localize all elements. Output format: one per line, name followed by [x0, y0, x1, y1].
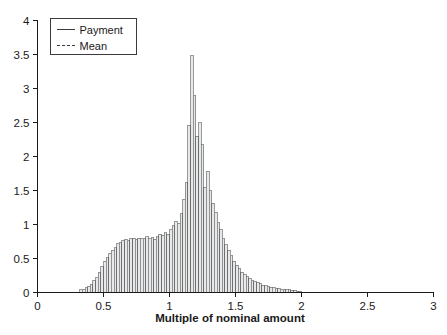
histogram-bar [204, 187, 207, 292]
y-tick-label: 3.5 [14, 49, 30, 61]
y-tick-label: 1.5 [14, 185, 30, 197]
histogram-bar [183, 199, 186, 292]
histogram-bar [238, 269, 241, 293]
histogram-bars [80, 56, 302, 293]
histogram-bar [90, 284, 93, 292]
histogram-bar [228, 250, 231, 292]
histogram-bar [159, 234, 162, 292]
histogram-bar [254, 282, 257, 293]
histogram-bar [85, 288, 88, 293]
y-tick-label: 2.5 [14, 117, 30, 129]
histogram-bar [133, 238, 136, 292]
histogram-bar [175, 221, 178, 292]
histogram-bar [233, 261, 236, 292]
histogram-bar [193, 95, 196, 292]
histogram-bar [125, 239, 128, 292]
histogram-bar [164, 233, 167, 293]
histogram-bar [106, 257, 109, 292]
histogram-bar [98, 272, 101, 292]
histogram-bar [111, 250, 114, 292]
histogram-bar [96, 278, 99, 293]
histogram-bar [104, 261, 107, 292]
legend-label-mean: Mean [80, 40, 108, 52]
histogram-bar [109, 253, 112, 292]
histogram-bar [88, 286, 91, 292]
x-tick-label: 1.5 [228, 300, 244, 312]
histogram-bar [140, 239, 143, 293]
x-tick-label: 2.5 [360, 300, 376, 312]
histogram-bar [82, 289, 85, 292]
histogram-bar [196, 136, 199, 292]
histogram-bar [146, 237, 149, 293]
x-tick-label: 0 [34, 300, 40, 312]
histogram-bar [278, 288, 281, 292]
histogram-bar [180, 214, 183, 293]
x-tick-label: 3 [430, 300, 436, 312]
histogram-bar [148, 239, 151, 293]
histogram-bar [214, 212, 217, 292]
histogram-bar [270, 287, 273, 292]
x-axis-title: Multiple of nominal amount [155, 312, 305, 324]
histogram-bar [212, 203, 215, 292]
histogram-bar [230, 255, 233, 292]
histogram-bar [122, 241, 125, 293]
histogram-bar [243, 275, 246, 293]
histogram-bar [241, 272, 244, 292]
histogram-bar [101, 267, 104, 293]
histogram-bar [272, 288, 275, 293]
chart-figure: 00.511.522.53 00.511.522.533.54 Multiple… [0, 0, 447, 335]
y-tick-label: 4 [23, 15, 30, 27]
histogram-bar [259, 284, 262, 293]
histogram-bar [262, 285, 265, 292]
histogram-bar [236, 265, 239, 292]
histogram-bar [172, 226, 175, 293]
y-tick-label: 1 [23, 219, 29, 231]
histogram-bar [249, 279, 252, 293]
histogram-bar [117, 244, 120, 293]
chart-legend: PaymentMean [51, 19, 137, 55]
histogram-bar [188, 125, 191, 292]
histogram-chart: 00.511.522.53 00.511.522.533.54 Multiple… [0, 0, 447, 335]
histogram-bar [222, 238, 225, 292]
histogram-bar [185, 182, 188, 292]
histogram-bar [220, 230, 223, 293]
histogram-bar [225, 245, 228, 293]
y-axis-ticks: 00.511.522.533.54 [14, 15, 38, 299]
histogram-bar [265, 286, 268, 293]
histogram-bar [209, 191, 212, 293]
histogram-bar [170, 230, 173, 293]
histogram-bar [251, 280, 254, 292]
histogram-bar [156, 237, 159, 293]
histogram-bar [154, 239, 157, 292]
x-tick-label: 2 [298, 300, 304, 312]
histogram-bar [93, 281, 96, 293]
histogram-bar [167, 234, 170, 292]
histogram-bar [199, 123, 202, 293]
histogram-bar [138, 238, 141, 292]
y-tick-label: 3 [23, 83, 29, 95]
legend-label-payment: Payment [80, 24, 123, 36]
histogram-bar [246, 277, 249, 293]
x-tick-label: 1 [166, 300, 172, 312]
histogram-bar [267, 286, 270, 292]
histogram-bar [114, 248, 117, 293]
histogram-bar [280, 289, 283, 292]
x-axis-ticks: 00.511.522.53 [34, 293, 436, 312]
histogram-bar [283, 289, 286, 292]
y-tick-label: 0 [23, 287, 29, 299]
histogram-bar [217, 222, 220, 292]
histogram-bar [135, 239, 138, 292]
histogram-bar [130, 239, 133, 293]
histogram-bar [127, 240, 130, 292]
histogram-bar [162, 235, 165, 292]
histogram-bar [151, 237, 154, 292]
y-tick-label: 0.5 [14, 253, 30, 265]
histogram-bar [201, 145, 204, 293]
x-tick-label: 0.5 [96, 300, 112, 312]
histogram-bar [206, 171, 209, 292]
histogram-bar [257, 283, 260, 293]
y-tick-label: 2 [23, 151, 29, 163]
chart-axes [38, 21, 434, 293]
histogram-bar [143, 238, 146, 292]
histogram-bar [191, 56, 194, 293]
